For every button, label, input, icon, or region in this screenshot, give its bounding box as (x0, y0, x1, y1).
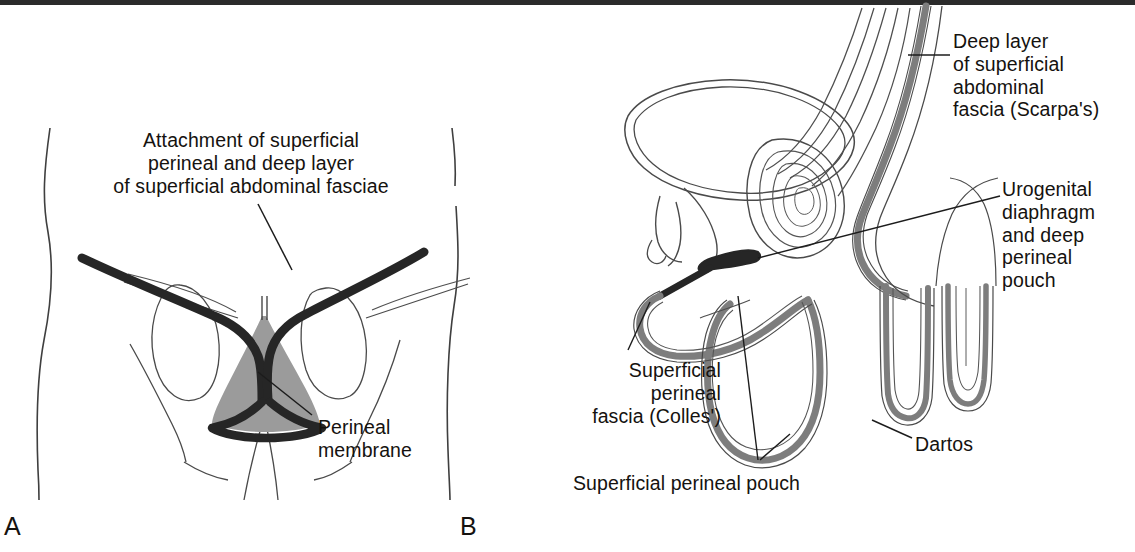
scrotal-septum-line (700, 300, 750, 318)
body-outline-right-lower (447, 206, 458, 500)
leader-urogenital (758, 196, 1000, 258)
label-urogenital-diaphragm-deep-perineal-pouch: Urogenital diaphragm and deep perineal p… (1002, 178, 1095, 292)
label-dartos: Dartos (915, 433, 973, 456)
label-deep-layer-scarpas-fascia: Deep layer of superficial abdominal fasc… (953, 30, 1099, 121)
ug-diaphragm-extension (660, 268, 710, 296)
panel-letter-b: B (460, 512, 477, 541)
leader-pouch-1 (738, 296, 758, 460)
leader-attachment (258, 204, 292, 270)
panel-letter-a: A (4, 512, 21, 541)
penis-shaft-contour-left (936, 178, 998, 286)
label-superficial-perineal-pouch: Superficial perineal pouch (573, 472, 800, 495)
anatomy-figure: Attachment of superficial perineal and d… (0, 0, 1135, 552)
perineal-crease-left (184, 462, 228, 480)
bladder-outer (625, 80, 854, 200)
bladder-inner (634, 87, 845, 193)
label-perineal-membrane: Perineal membrane (318, 416, 412, 462)
abdominal-layer-1 (766, 8, 862, 170)
body-outline-left (37, 128, 51, 500)
penis-shaft-contour-right (950, 178, 996, 286)
leader-dartos (872, 420, 912, 438)
penis-dartos-layer (886, 286, 928, 418)
body-outline-right-upper (452, 128, 455, 186)
thigh-crease-left (130, 344, 186, 462)
label-superficial-perineal-fascia-colles: Superficial perineal fascia (Colles') (556, 359, 721, 427)
scarpa-fascia-band (858, 6, 927, 296)
colles-fascia-scrotal-pouch (708, 300, 821, 460)
bladder-neck-right (668, 202, 681, 266)
perineal-crease-right (314, 462, 352, 480)
penis-outline-inner (893, 288, 921, 409)
penis-urethra-line (956, 286, 980, 390)
label-attachment-of-superficial-fasciae: Attachment of superficial perineal and d… (96, 129, 406, 197)
